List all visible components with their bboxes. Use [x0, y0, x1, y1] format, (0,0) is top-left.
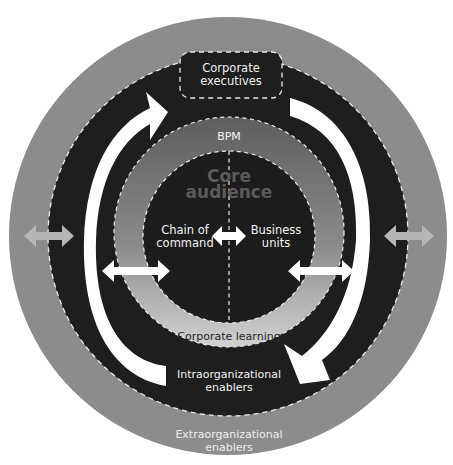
core-audience-diagram: Corporate executives BPM Core audience C… [0, 0, 453, 465]
chain-of-command-line2: command [152, 237, 218, 250]
intraorganizational-line2: enablers [164, 381, 294, 394]
extraorganizational-line2: enablers [164, 441, 294, 454]
business-units-label: Business units [246, 224, 306, 250]
corporate-learning-label: Corporate learning [164, 330, 294, 343]
core-audience-line2: audience [169, 184, 289, 200]
intraorganizational-line1: Intraorganizational [164, 368, 294, 381]
core-audience-label: Core audience [169, 168, 289, 200]
intraorganizational-label: Intraorganizational enablers [164, 368, 294, 394]
bpm-label: BPM [199, 130, 259, 143]
chain-of-command-label: Chain of command [152, 224, 218, 250]
corporate-executives-line2: executives [181, 75, 281, 88]
extraorganizational-line1: Extraorganizational [164, 428, 294, 441]
extraorganizational-label: Extraorganizational enablers [164, 428, 294, 454]
business-units-line2: units [246, 237, 306, 250]
corporate-executives-label: Corporate executives [181, 62, 281, 88]
